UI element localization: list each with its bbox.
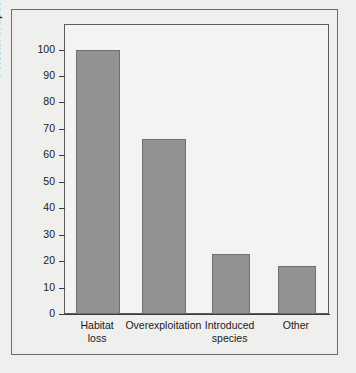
y-tick-mark (59, 50, 65, 51)
x-axis-label-line: Other (248, 319, 344, 332)
y-tick-mark (59, 155, 65, 156)
y-tick-mark (59, 129, 65, 130)
x-axis-line (65, 314, 330, 315)
x-axis-label: Other (248, 319, 344, 332)
y-tick-label: 30 (43, 228, 55, 240)
y-tick-mark (59, 261, 65, 262)
plot-area: 0102030405060708090100 (64, 24, 329, 314)
y-tick-label: 40 (43, 201, 55, 213)
bar (142, 139, 186, 314)
bar (278, 266, 316, 314)
y-tick-label: 0 (49, 307, 55, 319)
y-tick-label: 90 (43, 69, 55, 81)
y-tick-label: 20 (43, 254, 55, 266)
x-axis-label-line: loss (49, 332, 145, 345)
y-tick-mark (59, 182, 65, 183)
y-tick-label: 10 (43, 281, 55, 293)
bar (76, 50, 120, 314)
y-tick-label: 80 (43, 95, 55, 107)
y-tick-mark (59, 102, 65, 103)
figure: Percent of species affected 010203040506… (0, 0, 356, 373)
y-tick-mark (59, 76, 65, 77)
y-tick-label: 100 (37, 43, 55, 55)
y-tick-mark (59, 235, 65, 236)
y-axis-title: Percent of species affected (0, 0, 2, 78)
y-tick-label: 60 (43, 148, 55, 160)
x-axis-label-line: species (182, 332, 278, 345)
bar (212, 254, 250, 314)
y-tick-mark (59, 208, 65, 209)
plot-inner: 0102030405060708090100 (65, 25, 328, 313)
y-tick-label: 70 (43, 122, 55, 134)
y-tick-mark (59, 288, 65, 289)
y-tick-label: 50 (43, 175, 55, 187)
